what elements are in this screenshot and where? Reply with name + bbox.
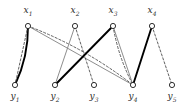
graph-edge xyxy=(133,26,152,85)
node-label-y4: y4 xyxy=(129,92,138,103)
graph-edge xyxy=(152,26,172,85)
graph-node-y1[interactable] xyxy=(12,82,17,87)
graph-edge xyxy=(113,26,133,85)
node-label-x3: x3 xyxy=(109,6,118,17)
node-label-y1: y1 xyxy=(11,92,20,103)
graph-node-y3[interactable] xyxy=(91,82,96,87)
graph-node-x3[interactable] xyxy=(110,23,115,28)
node-label-y2: y2 xyxy=(51,92,60,103)
node-label-x2: x2 xyxy=(71,6,80,17)
graph-node-x1[interactable] xyxy=(25,23,30,28)
graph-node-y2[interactable] xyxy=(52,82,57,87)
graph-node-y4[interactable] xyxy=(130,82,135,87)
graph-node-x4[interactable] xyxy=(149,23,154,28)
graph-node-x2[interactable] xyxy=(72,23,77,28)
node-label-y3: y3 xyxy=(90,92,99,103)
node-label-x4: x4 xyxy=(148,6,157,17)
bipartite-graph-figure: x1x2x3x4y1y2y3y4y5 xyxy=(0,0,193,106)
graph-edge xyxy=(28,26,133,85)
graph-edge xyxy=(55,26,113,85)
node-label-x1: x1 xyxy=(24,6,33,17)
node-label-y5: y5 xyxy=(168,92,177,103)
graph-node-y5[interactable] xyxy=(169,82,174,87)
